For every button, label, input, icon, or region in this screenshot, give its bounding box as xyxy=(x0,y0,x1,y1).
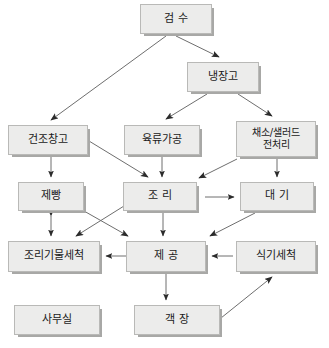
node-dining-hall[interactable]: 객 장 xyxy=(134,305,220,335)
edge-fridge-to-vegetable xyxy=(238,94,272,116)
node-inspection-label: 검 수 xyxy=(162,13,190,26)
node-dry-storage-label: 건조창고 xyxy=(26,134,70,147)
node-bakery-label: 제빵 xyxy=(39,190,63,203)
edge-bakery-to-serving xyxy=(84,211,128,236)
node-standby-label: 대 기 xyxy=(263,190,291,203)
edge-dining-hall-to-dish-wash xyxy=(221,277,272,318)
edge-inspection-to-fridge xyxy=(176,36,219,57)
node-cooking-label: 조 리 xyxy=(146,190,174,203)
node-inspection[interactable]: 검 수 xyxy=(140,4,212,34)
node-serving[interactable]: 제 공 xyxy=(126,241,206,272)
node-bakery[interactable]: 제빵 xyxy=(18,182,84,211)
node-serving-label: 제 공 xyxy=(152,250,180,263)
node-vegetable-salad-prep[interactable]: 채소/샐러드 전처리 xyxy=(236,121,316,157)
node-refrigerator[interactable]: 냉장고 xyxy=(187,62,259,92)
edge-fridge-to-meat xyxy=(166,94,207,119)
node-utensil-washing[interactable]: 조리기물세척 xyxy=(8,241,100,272)
node-meat-processing[interactable]: 육류가공 xyxy=(124,125,200,155)
node-office-label: 사무실 xyxy=(40,314,74,327)
node-cooking[interactable]: 조 리 xyxy=(123,182,197,211)
node-standby[interactable]: 대 기 xyxy=(240,182,314,211)
node-dish-washing[interactable]: 식기세척 xyxy=(236,241,316,272)
node-office[interactable]: 사무실 xyxy=(14,305,100,335)
edge-inspection-to-dry-storage xyxy=(51,36,166,120)
node-dry-storage[interactable]: 건조창고 xyxy=(8,125,88,155)
flowchart-canvas: 검 수 냉장고 건조창고 육류가공 채소/샐러드 전처리 제빵 조 리 대 기 … xyxy=(0,0,329,348)
node-meat-processing-label: 육류가공 xyxy=(140,134,184,147)
node-refrigerator-label: 냉장고 xyxy=(206,71,240,84)
node-dining-hall-label: 객 장 xyxy=(163,314,191,327)
edge-standby-to-serving xyxy=(210,213,255,236)
node-vegetable-salad-prep-label: 채소/샐러드 전처리 xyxy=(250,127,302,151)
node-utensil-washing-label: 조리기물세척 xyxy=(22,250,86,263)
node-dish-washing-label: 식기세척 xyxy=(254,250,298,263)
flowchart-edges xyxy=(0,0,329,348)
edge-vegetable-to-cooking xyxy=(199,159,237,178)
